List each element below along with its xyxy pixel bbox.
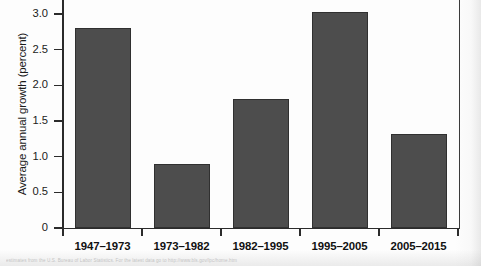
x-tick-mark	[220, 229, 221, 236]
x-tick-label-1982–1995: 1982–1995	[221, 240, 300, 252]
y-tick-label: 1.0	[4, 150, 48, 162]
bar-1995–2005[interactable]	[312, 12, 368, 228]
bar-1973–1982[interactable]	[154, 164, 210, 228]
x-tick-label-1947–1973: 1947–1973	[63, 240, 142, 252]
x-tick-mark	[62, 229, 63, 236]
y-tick-mark	[54, 192, 62, 193]
bar-chart: Average annual growth (percent) 00.51.01…	[0, 0, 481, 266]
y-tick-label: 0	[4, 221, 48, 233]
y-tick-label: 1.5	[4, 114, 48, 126]
bar-1982–1995[interactable]	[233, 99, 289, 228]
y-tick-mark	[54, 120, 62, 121]
x-tick-mark	[457, 229, 458, 236]
y-tick-label: 3.0	[4, 7, 48, 19]
figure-container: Average annual growth (percent) 00.51.01…	[0, 0, 481, 266]
x-tick-mark	[378, 229, 379, 236]
y-tick-label: 2.0	[4, 78, 48, 90]
y-tick-mark	[54, 227, 62, 228]
y-tick-mark	[54, 156, 62, 157]
x-tick-label-1973–1982: 1973–1982	[142, 240, 221, 252]
x-tick-label-2005–2015: 2005–2015	[379, 240, 458, 252]
y-tick-label: 2.5	[4, 43, 48, 55]
bar-2005–2015[interactable]	[391, 134, 447, 228]
y-tick-label: 0.5	[4, 185, 48, 197]
x-tick-mark	[141, 229, 142, 236]
x-tick-label-1995–2005: 1995–2005	[300, 240, 379, 252]
bar-1947–1973[interactable]	[75, 28, 131, 228]
y-tick-mark	[54, 85, 62, 86]
figure-caption: estimates from the U.S. Bureau of Labor …	[6, 258, 476, 266]
y-tick-mark	[54, 13, 62, 14]
plot-right-frame	[459, 0, 460, 229]
y-tick-mark	[54, 49, 62, 50]
x-tick-mark	[299, 229, 300, 236]
y-axis-line	[62, 0, 64, 229]
